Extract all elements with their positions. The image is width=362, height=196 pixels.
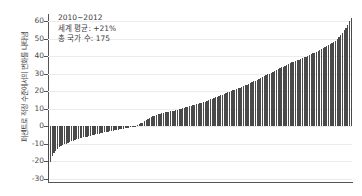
y-axis-tick-label: 0: [4, 122, 44, 129]
y-axis-tick-label: 50: [4, 35, 44, 42]
y-axis-tick-label: 10: [4, 105, 44, 112]
y-axis-tick-label: -10: [4, 140, 44, 147]
x-axis-line: [48, 182, 353, 183]
bar-chart-figure: 퍼센트로 적정 수준에서의 변화를 나타냄 -30-20-10010203040…: [0, 0, 362, 196]
y-axis-tick-label: -20: [4, 157, 44, 164]
y-axis-tick-label: 40: [4, 52, 44, 59]
y-axis-tick-label: 30: [4, 70, 44, 77]
y-axis-tick-label: 20: [4, 87, 44, 94]
annotation-period: 2010~2012: [58, 13, 116, 24]
annotation-world-average: 세계 평균: +21%: [58, 24, 116, 35]
y-axis-tick-label: -30: [4, 175, 44, 182]
bar: [351, 18, 352, 127]
annotation-country-count: 총 국가 수: 175: [58, 34, 116, 45]
chart-annotation: 2010~2012 세계 평균: +21% 총 국가 수: 175: [58, 13, 116, 45]
y-axis-tick-labels: -30-20-100102030405060: [0, 0, 44, 196]
y-axis-tick-label: 60: [4, 17, 44, 24]
